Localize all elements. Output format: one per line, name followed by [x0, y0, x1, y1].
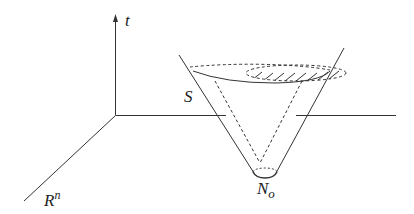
cone-left-edge [179, 55, 254, 173]
s-label: S [184, 87, 193, 106]
bottom-ellipse-solid [253, 172, 277, 178]
dashed-triangle-right [260, 81, 302, 163]
light-cone-diagram: t Rn S No [0, 0, 414, 214]
outer-dashed-ellipse [190, 64, 330, 70]
t-axis-arrow-icon [113, 14, 118, 22]
cone [179, 48, 346, 178]
rn-axis [24, 116, 116, 202]
bottom-ellipse-dashed [253, 168, 277, 172]
t-label: t [125, 11, 131, 30]
axes [24, 14, 396, 201]
cone-right-edge [276, 48, 344, 173]
no-label: No [256, 179, 275, 201]
rn-label: Rn [43, 188, 60, 210]
